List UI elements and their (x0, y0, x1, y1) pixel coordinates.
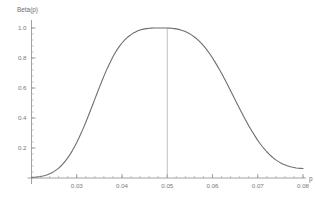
x-tick-label: 0.03 (71, 182, 84, 189)
x-axis-major-ticks (77, 174, 303, 178)
x-tick-label: 0.06 (206, 182, 219, 189)
x-tick-label: 0.08 (297, 182, 310, 189)
x-axis-tick-labels: 0.030.040.050.060.070.08 (71, 182, 310, 189)
y-tick-label: 1.0 (18, 24, 27, 31)
plot-axes (28, 20, 307, 184)
y-axis-tick-labels: 0.20.40.60.81.0 (18, 24, 27, 151)
y-tick-label: 0.8 (18, 54, 27, 61)
beta-power-curve-plot: 0.030.040.050.060.070.08 0.20.40.60.81.0… (0, 0, 315, 202)
x-tick-label: 0.04 (116, 182, 129, 189)
y-tick-label: 0.2 (18, 144, 27, 151)
y-axis-title: Beta(p) (17, 6, 38, 14)
x-tick-label: 0.07 (252, 182, 265, 189)
y-tick-label: 0.6 (18, 84, 27, 91)
x-tick-label: 0.05 (161, 182, 174, 189)
x-axis-title: p (309, 175, 313, 183)
y-tick-label: 0.4 (18, 114, 27, 121)
chart-container: 0.030.040.050.060.070.08 0.20.40.60.81.0… (0, 0, 315, 202)
